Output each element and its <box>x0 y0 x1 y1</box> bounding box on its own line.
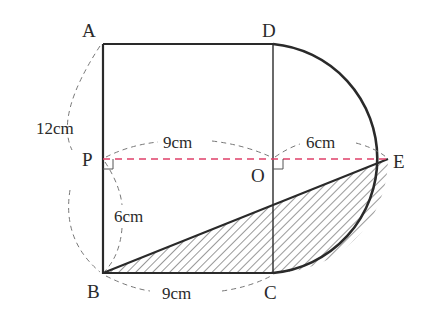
right-angle-mark-o <box>273 159 283 169</box>
right-angle-mark-p <box>103 159 113 169</box>
label-a: A <box>82 20 96 41</box>
label-b: B <box>87 281 100 302</box>
label-o: O <box>251 165 265 186</box>
label-e: E <box>393 151 405 172</box>
label-p: P <box>82 149 93 170</box>
dim-label-ab: 12cm <box>36 119 74 138</box>
dim-label-po: 9cm <box>163 133 192 152</box>
dim-label-pb: 6cm <box>114 207 143 226</box>
dim-label-oe: 6cm <box>306 133 335 152</box>
geometry-figure: A D P O E B C 12cm 9cm 6cm 6cm 9cm <box>0 0 432 326</box>
label-c: C <box>264 282 277 303</box>
label-d: D <box>262 20 276 41</box>
dim-label-bc: 9cm <box>162 284 191 303</box>
